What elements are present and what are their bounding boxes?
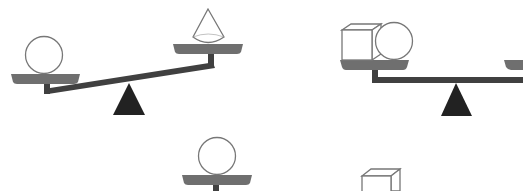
scale-1 xyxy=(11,9,243,115)
scale-2 xyxy=(340,23,523,117)
scale-2-fulcrum xyxy=(441,83,472,116)
scale-2-left-pan xyxy=(340,60,409,70)
balance-diagram xyxy=(0,0,523,191)
scale-2-left-post xyxy=(372,68,378,83)
scale-4 xyxy=(362,169,400,191)
scale-2-beam xyxy=(372,77,523,83)
sphere-icon xyxy=(376,23,413,60)
scale-3 xyxy=(182,138,252,192)
scale-3-pan xyxy=(182,175,252,185)
sphere-icon xyxy=(26,37,63,74)
sphere-icon xyxy=(199,138,236,175)
cube-icon xyxy=(362,169,400,191)
cone-icon xyxy=(193,9,224,43)
scale-1-right-pan xyxy=(173,44,243,54)
scale-1-left-pan xyxy=(11,74,80,84)
scale-1-right-post xyxy=(208,52,214,66)
scale-1-fulcrum xyxy=(113,83,145,115)
scale-2-right-pan-cropped xyxy=(504,60,523,70)
